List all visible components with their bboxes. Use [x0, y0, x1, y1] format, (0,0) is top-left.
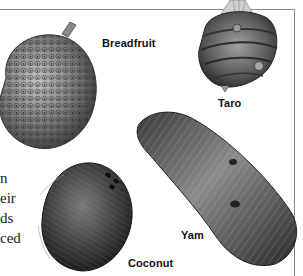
breadfruit-illustration	[0, 18, 102, 158]
body-text-fragment: n eir ds ced	[0, 168, 21, 248]
breadfruit-label: Breadfruit	[102, 37, 156, 49]
coconut-label: Coconut	[128, 257, 173, 269]
yam-illustration	[135, 108, 303, 273]
taro-illustration	[175, 0, 285, 100]
body-text-line: n	[0, 168, 21, 188]
body-text-line: ced	[0, 228, 21, 248]
body-text-line: eir	[0, 188, 21, 208]
illustrated-page: Breadfruit Taro	[0, 0, 303, 276]
yam-label: Yam	[181, 229, 204, 241]
coconut-illustration	[36, 155, 136, 275]
body-text-line: ds	[0, 208, 21, 228]
